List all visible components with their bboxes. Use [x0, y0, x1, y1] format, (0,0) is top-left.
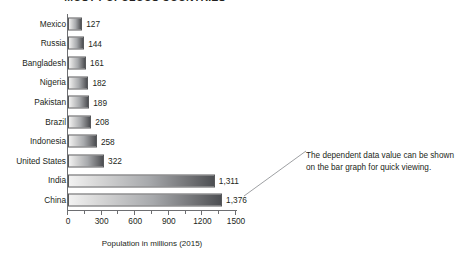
- x-axis-title: Population in millions (2015): [67, 239, 237, 248]
- x-tick-minor: [151, 210, 152, 214]
- bar-row: China1,376: [0, 190, 250, 210]
- chart-title: MOST POPULOUS COUNTRIES: [30, 0, 260, 5]
- bar-row: Mexico127: [0, 14, 250, 34]
- bar-category-label: Brazil: [0, 118, 66, 126]
- bar-value-label: 189: [93, 98, 107, 106]
- bar: [68, 56, 86, 69]
- x-tick-label: 900: [162, 217, 176, 225]
- bar: [68, 115, 91, 128]
- plot-area: Mexico127Russia144Bangladesh161Nigeria18…: [0, 14, 250, 210]
- bar-value-label: 182: [92, 78, 106, 86]
- x-tick-label: 1200: [193, 217, 211, 225]
- bar-row: India1,311: [0, 171, 250, 191]
- bar: [68, 76, 88, 89]
- x-tick-minor: [185, 210, 186, 214]
- bar-row: Pakistan189: [0, 92, 250, 112]
- bar-value-label: 127: [86, 20, 100, 28]
- bar-row: Nigeria182: [0, 73, 250, 93]
- bar: [68, 37, 84, 50]
- x-tick-major: [67, 210, 68, 215]
- bar-rows: Mexico127Russia144Bangladesh161Nigeria18…: [0, 14, 250, 210]
- x-tick-label: 1500: [227, 217, 245, 225]
- bar-wrapper: 144: [68, 37, 102, 50]
- bar-wrapper: 322: [68, 154, 122, 167]
- bar-category-label: Pakistan: [0, 98, 66, 106]
- bar-value-label: 322: [108, 157, 122, 165]
- bar-category-label: India: [0, 176, 66, 184]
- x-tick-major: [134, 210, 135, 215]
- bar: [68, 17, 82, 30]
- bar-row: Bangladesh161: [0, 53, 250, 73]
- x-tick-minor: [117, 210, 118, 214]
- bar-value-label: 144: [88, 39, 102, 47]
- bar-wrapper: 127: [68, 17, 100, 30]
- bar: [68, 135, 97, 148]
- bar: [68, 194, 222, 207]
- x-axis-line: [67, 210, 237, 211]
- bar-row: United States322: [0, 151, 250, 171]
- bar-category-label: Indonesia: [0, 137, 66, 145]
- annotation-text: The dependent data value can be shown on…: [306, 150, 456, 173]
- x-tick-label: 300: [95, 217, 109, 225]
- bar-value-label: 161: [90, 59, 104, 67]
- bar-category-label: Nigeria: [0, 78, 66, 86]
- bar-wrapper: 182: [68, 76, 106, 89]
- bar-value-label: 208: [95, 118, 109, 126]
- bar-wrapper: 1,311: [68, 174, 239, 187]
- bar-wrapper: 208: [68, 115, 109, 128]
- x-tick-major: [235, 210, 236, 215]
- bar-category-label: Bangladesh: [0, 59, 66, 67]
- bar-wrapper: 1,376: [68, 194, 247, 207]
- x-tick-minor: [84, 210, 85, 214]
- bar-row: Brazil208: [0, 112, 250, 132]
- bar-value-label: 258: [101, 137, 115, 145]
- bar: [68, 96, 89, 109]
- bar-category-label: United States: [0, 157, 66, 165]
- bar-row: Indonesia258: [0, 132, 250, 152]
- x-tick-minor: [218, 210, 219, 214]
- bar-category-label: China: [0, 196, 66, 204]
- x-tick-major: [101, 210, 102, 215]
- bar-wrapper: 258: [68, 135, 115, 148]
- bar-value-label: 1,311: [219, 176, 239, 184]
- x-tick-major: [168, 210, 169, 215]
- x-tick-label: 0: [66, 217, 71, 225]
- bar-chart-figure: MOST POPULOUS COUNTRIES Mexico127Russia1…: [0, 0, 463, 264]
- bar-wrapper: 161: [68, 56, 104, 69]
- bar-wrapper: 189: [68, 96, 107, 109]
- bar-row: Russia144: [0, 34, 250, 54]
- x-tick-label: 600: [128, 217, 142, 225]
- bar: [68, 154, 104, 167]
- bar-category-label: Russia: [0, 39, 66, 47]
- bar-category-label: Mexico: [0, 20, 66, 28]
- x-tick-major: [201, 210, 202, 215]
- bar: [68, 174, 215, 187]
- leader-line: [240, 145, 310, 200]
